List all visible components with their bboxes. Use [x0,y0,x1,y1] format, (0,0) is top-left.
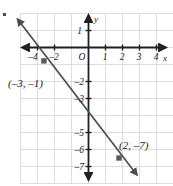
x-axis-label: x [162,53,167,63]
point-marker-a [41,58,46,63]
coordinate-plane-figure: –4 –2 1 2 3 4 1 –2 –3 –5 –6 –7 O x y (–3… [0,0,173,186]
margin-speck [3,13,6,16]
x-tick-label-2: 2 [120,52,125,62]
x-tick-label-4: 4 [154,52,159,62]
y-tick-label-neg3: –3 [74,94,85,104]
y-axis-label: y [93,14,98,24]
x-tick-label-1: 1 [103,52,108,62]
y-tick-label-neg7: –7 [74,162,86,172]
x-tick-label-3: 3 [136,52,142,62]
y-tick-label-neg2: –2 [74,77,85,87]
y-tick-label-neg5: –5 [74,128,85,138]
point-label-b: (2, –7) [119,139,149,152]
graph-canvas: –4 –2 1 2 3 4 1 –2 –3 –5 –6 –7 O x y (–3… [0,0,173,186]
y-tick-label-1: 1 [77,26,82,36]
x-tick-label-neg2: –2 [48,52,59,62]
origin-label: O [79,52,86,62]
figure-background [0,0,173,186]
y-tick-label-neg6: –6 [74,145,85,155]
point-marker-b [116,155,121,160]
point-label-a: (–3, –1) [8,77,43,90]
x-tick-label-neg4: –4 [27,52,38,62]
